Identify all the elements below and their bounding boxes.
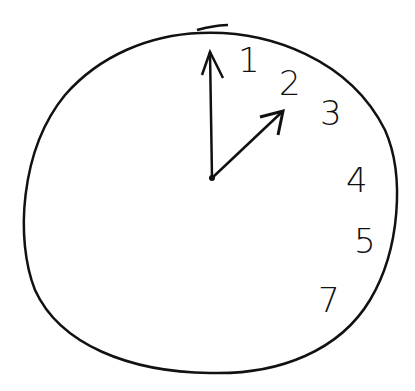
clock-number-2: 2 xyxy=(279,63,301,103)
clock-number-3: 3 xyxy=(320,93,342,133)
minute-hand-arrowhead xyxy=(202,52,223,78)
minute-hand xyxy=(210,52,212,178)
hour-hand xyxy=(212,111,283,178)
clock-drawing: 1 2 3 4 5 7 xyxy=(0,0,415,391)
clock-number-1: 1 xyxy=(238,40,260,80)
clock-number-7: 7 xyxy=(318,280,340,320)
center-pivot xyxy=(209,175,215,181)
outline-overlap-stroke xyxy=(197,25,228,30)
clock-number-5: 5 xyxy=(354,221,376,261)
clock-number-4: 4 xyxy=(346,160,368,200)
